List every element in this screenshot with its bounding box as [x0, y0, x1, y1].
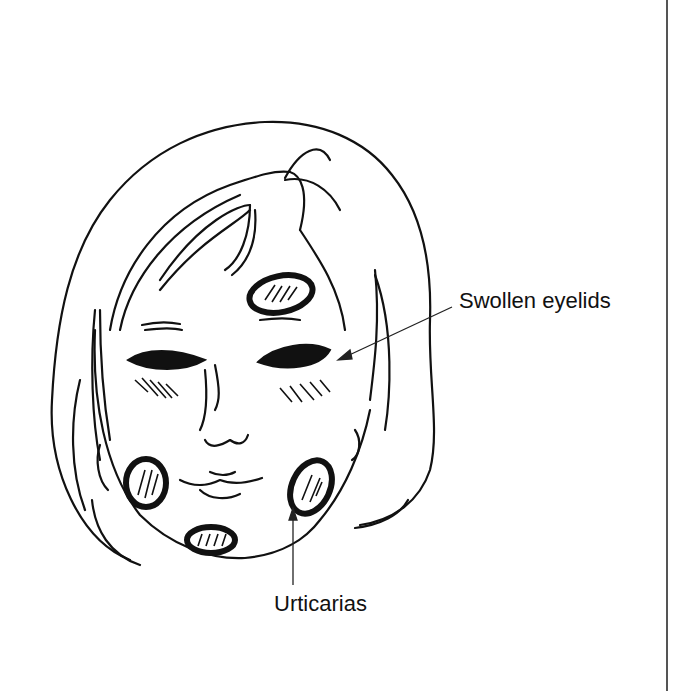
urticaria-patches	[126, 270, 340, 553]
eyelids-arrowhead-icon	[338, 350, 352, 360]
urticaria-forehead	[246, 270, 316, 319]
right-eye-icon	[258, 345, 330, 367]
right-border-rule	[666, 0, 668, 691]
swollen-eyes	[128, 345, 330, 369]
urticarias-label: Urticarias	[274, 591, 367, 617]
left-eye-icon	[128, 351, 205, 369]
face-illustration	[0, 0, 680, 691]
urticaria-right-cheek	[282, 454, 340, 521]
urticaria-chin	[187, 527, 235, 553]
swollen-eyelids-label: Swollen eyelids	[459, 288, 611, 314]
urticaria-left-cheek	[126, 459, 166, 507]
eyelids-callout-line	[345, 307, 452, 357]
